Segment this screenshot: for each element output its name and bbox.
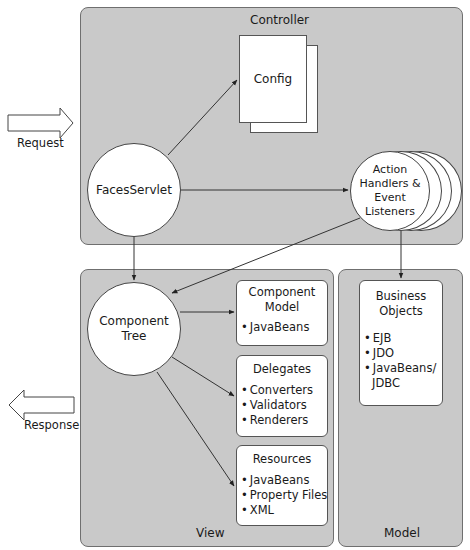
list-item: EJB <box>364 331 442 346</box>
list-item-text: JDBC <box>372 376 400 390</box>
component-tree-line-2: Tree <box>121 329 146 344</box>
action-handlers-line-2: Handlers & <box>359 177 420 191</box>
business-objects-title: Business Objects <box>360 289 442 319</box>
business-objects-box: Business Objects EJB JDO JavaBeans/ JDBC <box>359 280 443 406</box>
request-arrow-icon <box>8 108 73 138</box>
config-page: Config <box>239 35 307 123</box>
action-handlers-line-4: Listeners <box>365 205 415 219</box>
component-tree-node: Component Tree <box>87 282 181 376</box>
response-arrow-icon <box>9 390 74 420</box>
response-label: Response <box>24 418 79 432</box>
list-item: Renderers <box>241 413 327 428</box>
view-label: View <box>196 526 224 540</box>
business-objects-title-line-1: Business <box>360 289 442 304</box>
delegates-box: Delegates Converters Validators Renderer… <box>236 355 328 437</box>
list-item: JavaBeans/ <box>364 361 442 376</box>
list-item: Property Files <box>241 488 327 503</box>
component-model-title-line-1: Component <box>237 285 327 300</box>
delegates-title: Delegates <box>237 362 327 377</box>
business-objects-list: EJB JDO JavaBeans/ JDBC <box>360 331 442 391</box>
list-item: Validators <box>241 398 327 413</box>
resources-title: Resources <box>237 452 327 467</box>
business-objects-title-line-2: Objects <box>360 304 442 319</box>
list-item: JDO <box>364 346 442 361</box>
list-item: XML <box>241 503 327 518</box>
faces-servlet-node: FacesServlet <box>87 143 181 237</box>
action-handlers-line-3: Event <box>374 191 406 205</box>
component-model-title-line-2: Model <box>237 300 327 315</box>
list-item: JavaBeans <box>241 473 327 488</box>
delegates-list: Converters Validators Renderers <box>237 383 327 428</box>
model-label: Model <box>384 526 420 540</box>
component-model-box: Component Model JavaBeans <box>236 280 328 346</box>
component-model-title: Component Model <box>237 285 327 315</box>
component-tree-line-1: Component <box>99 314 169 329</box>
controller-label: Controller <box>250 13 309 27</box>
config-label: Config <box>254 72 293 86</box>
request-label: Request <box>17 136 64 150</box>
component-model-list: JavaBeans <box>237 320 327 335</box>
action-handlers-node: Action Handlers & Event Listeners <box>350 151 430 231</box>
list-item-continuation: JDBC <box>364 376 442 391</box>
list-item: JavaBeans <box>241 320 327 335</box>
resources-box: Resources JavaBeans Property Files XML <box>236 445 328 526</box>
resources-list: JavaBeans Property Files XML <box>237 473 327 518</box>
action-handlers-line-1: Action <box>373 163 407 177</box>
faces-servlet-label: FacesServlet <box>96 183 172 198</box>
list-item: Converters <box>241 383 327 398</box>
